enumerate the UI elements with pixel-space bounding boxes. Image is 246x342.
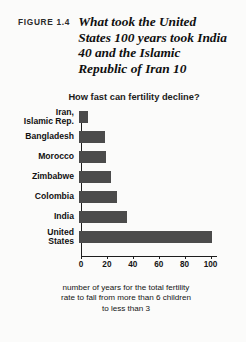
bar-label-zimbabwe: Zimbabwe xyxy=(0,172,78,181)
bar-row-united-states: United States xyxy=(0,231,246,243)
figure-container: FIGURE 1.4 What took the United States 1… xyxy=(0,0,246,342)
bar-label-iran: Iran, Islamic Rep. xyxy=(0,108,78,126)
x-tick-label-60: 60 xyxy=(154,260,163,269)
chart-block: How fast can fertility decline? Iran, Is… xyxy=(0,92,246,259)
figure-title: What took the United States 100 years to… xyxy=(78,14,232,76)
bar-row-bangladesh: Bangladesh xyxy=(0,131,246,143)
bar-row-colombia: Colombia xyxy=(0,191,246,203)
figure-number-label: FIGURE 1.4 xyxy=(18,14,70,27)
bar-track-colombia xyxy=(78,191,246,203)
bar-united-states xyxy=(79,231,212,243)
bar-track-united-states xyxy=(78,231,246,243)
bar-row-india: India xyxy=(0,211,246,223)
bar-iran xyxy=(79,111,88,123)
bar-bangladesh xyxy=(79,131,105,143)
bar-track-morocco xyxy=(78,151,246,163)
bar-track-bangladesh xyxy=(78,131,246,143)
x-tick-label-20: 20 xyxy=(102,260,111,269)
x-tick-0 xyxy=(81,256,82,259)
x-tick-20 xyxy=(107,256,108,259)
chart-caption: number of years for the total fertility … xyxy=(30,283,222,314)
bar-label-colombia: Colombia xyxy=(0,192,78,201)
bar-label-bangladesh: Bangladesh xyxy=(0,132,78,141)
x-tick-label-100: 100 xyxy=(204,260,218,269)
bar-track-zimbabwe xyxy=(78,171,246,183)
figure-header: FIGURE 1.4 What took the United States 1… xyxy=(0,14,246,76)
bar-morocco xyxy=(79,151,106,163)
x-tick-100 xyxy=(211,256,212,259)
x-tick-label-0: 0 xyxy=(79,260,84,269)
x-tick-80 xyxy=(185,256,186,259)
bar-row-zimbabwe: Zimbabwe xyxy=(0,171,246,183)
caption-line-1: number of years for the total fertility xyxy=(63,283,190,292)
x-tick-40 xyxy=(133,256,134,259)
bar-chart-plot: Iran, Islamic Rep. Bangladesh Morocco xyxy=(0,111,246,259)
bar-zimbabwe xyxy=(79,171,111,183)
x-tick-label-40: 40 xyxy=(128,260,137,269)
bar-india xyxy=(79,211,127,223)
x-tick-label-80: 80 xyxy=(180,260,189,269)
bar-rows: Iran, Islamic Rep. Bangladesh Morocco xyxy=(0,111,246,251)
bar-row-morocco: Morocco xyxy=(0,151,246,163)
bar-label-morocco: Morocco xyxy=(0,152,78,161)
bar-row-iran: Iran, Islamic Rep. xyxy=(0,111,246,123)
caption-line-3: to less than 3 xyxy=(102,304,150,313)
bar-track-india xyxy=(78,211,246,223)
caption-line-2: rate to fall from more than 6 children xyxy=(61,293,191,302)
x-tick-60 xyxy=(159,256,160,259)
chart-subtitle: How fast can fertility decline? xyxy=(0,92,246,102)
bar-track-iran xyxy=(78,111,246,123)
bar-colombia xyxy=(79,191,117,203)
x-axis-ticks: 020406080100 xyxy=(0,256,246,272)
bar-label-india: India xyxy=(0,212,78,221)
bar-label-united-states: United States xyxy=(0,228,78,246)
